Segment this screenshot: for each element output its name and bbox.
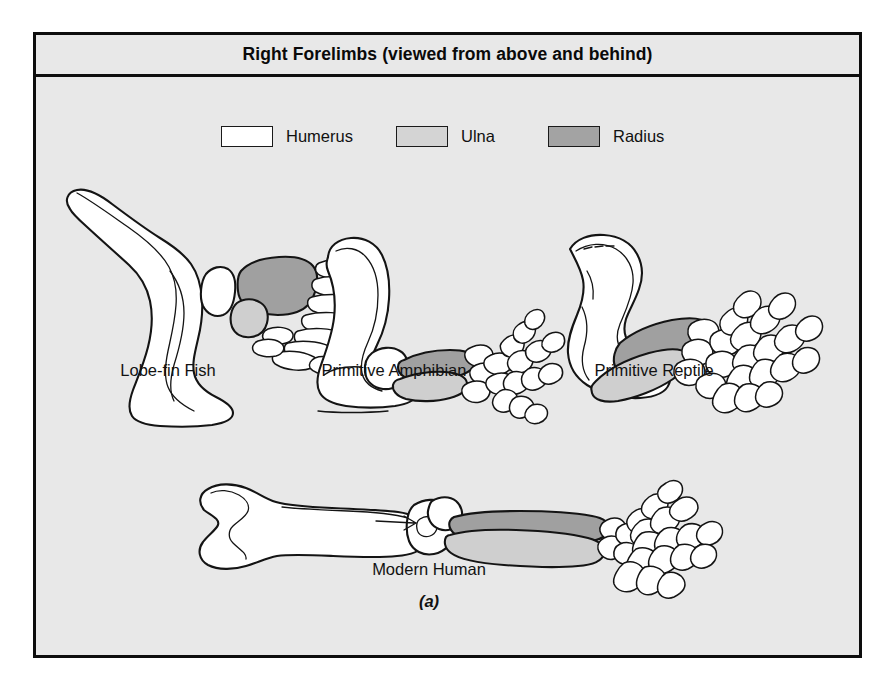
legend-label-ulna: Ulna — [461, 127, 495, 146]
reptile-digits — [713, 291, 823, 413]
reptile-humerus-inner-line — [587, 271, 593, 299]
legend-item-radius: Radius — [548, 123, 664, 149]
reptile-carpals — [674, 319, 741, 398]
radius-swatch — [548, 126, 600, 147]
amphibian-humerus-base — [318, 411, 388, 413]
fish-ulna — [231, 299, 268, 337]
fish-proximal-element — [201, 267, 235, 316]
specimen-label-primitive-reptile: Primitive Reptile — [549, 361, 759, 380]
human-elbow-condyle — [407, 500, 456, 555]
human-elbow-notch — [376, 516, 416, 530]
legend: Humerus Ulna Radius — [36, 123, 859, 149]
figure-page: Right Forelimbs (viewed from above and b… — [0, 0, 890, 688]
reptile-humerus-contour-1 — [576, 244, 633, 351]
human-humerus-contour-2 — [282, 507, 408, 518]
fish-fin-rays — [253, 260, 389, 374]
amphibian-humerus — [317, 238, 417, 408]
human-olecranon — [428, 497, 462, 530]
page-title: Right Forelimbs (viewed from above and b… — [242, 44, 652, 65]
ulna-swatch — [396, 126, 448, 147]
legend-item-ulna: Ulna — [396, 123, 495, 149]
specimen-primitive-reptile — [568, 235, 823, 413]
legend-label-radius: Radius — [613, 127, 664, 146]
human-elbow-fossa — [417, 517, 438, 537]
humerus-swatch — [221, 126, 273, 147]
specimen-lobe-fin-fish — [67, 190, 388, 427]
figure-frame: Right Forelimbs (viewed from above and b… — [33, 32, 862, 658]
fish-humerus — [67, 190, 233, 427]
figure-title-band: Right Forelimbs (viewed from above and b… — [36, 35, 859, 77]
specimen-primitive-amphibian — [317, 238, 564, 424]
human-humerus-contour-1 — [211, 491, 249, 559]
specimen-label-modern-human: Modern Human — [324, 560, 534, 579]
human-humerus — [200, 484, 429, 569]
specimen-label-lobe-fin-fish: Lobe-fin Fish — [68, 361, 268, 380]
human-carpals — [598, 518, 641, 565]
reptile-humerus-hatch — [584, 246, 614, 249]
legend-label-humerus: Humerus — [286, 127, 353, 146]
human-digits — [614, 481, 723, 599]
fish-radius — [238, 257, 317, 315]
specimen-label-primitive-amphibian: Primitive Amphibian — [289, 361, 499, 380]
legend-item-humerus: Humerus — [221, 123, 353, 149]
figure-caption-a: (a) — [379, 592, 479, 611]
specimen-modern-human — [200, 481, 723, 599]
human-radius — [449, 511, 609, 545]
fish-humerus-contour-2 — [170, 271, 184, 401]
